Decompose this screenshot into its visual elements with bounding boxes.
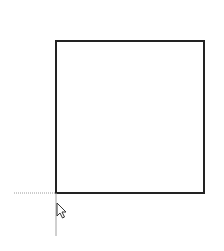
drawn-square[interactable] <box>56 41 204 193</box>
drawing-canvas[interactable] <box>0 0 224 251</box>
arrow-cursor-icon <box>57 203 66 218</box>
